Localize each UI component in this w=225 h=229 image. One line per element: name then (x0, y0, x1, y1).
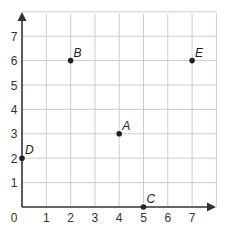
x-tick-labels: 01234567 (11, 211, 196, 225)
point-marker-icon (141, 204, 147, 210)
y-tick-label: 4 (11, 103, 18, 117)
y-tick-label: 1 (11, 176, 18, 190)
y-tick-label: 3 (11, 127, 18, 141)
x-axis-arrow-icon (207, 203, 216, 212)
y-tick-label: 2 (11, 152, 18, 166)
coordinate-plane: 01234567 1234567 ABCDE (0, 0, 225, 229)
y-tick-label: 7 (11, 30, 18, 44)
x-tick-label: 0 (11, 211, 18, 225)
point-marker-icon (68, 58, 74, 64)
x-tick-label: 4 (116, 211, 123, 225)
x-tick-label: 5 (140, 211, 147, 225)
x-tick-label: 1 (43, 211, 50, 225)
point-label: A (121, 119, 130, 133)
x-tick-label: 2 (67, 211, 74, 225)
point-label: B (74, 46, 82, 60)
y-tick-label: 6 (11, 54, 18, 68)
point-marker-icon (189, 58, 195, 64)
point-label: E (195, 46, 204, 60)
x-tick-label: 3 (92, 211, 99, 225)
y-axis-arrow-icon (18, 12, 27, 21)
point-marker-icon (19, 155, 25, 161)
point-marker-icon (116, 131, 122, 137)
grid-lines (22, 12, 216, 207)
point-label: D (25, 143, 34, 157)
axes (18, 12, 217, 212)
y-tick-label: 5 (11, 79, 18, 93)
data-points: ABCDE (19, 46, 204, 210)
y-tick-labels: 1234567 (11, 30, 18, 190)
x-tick-label: 6 (164, 211, 171, 225)
x-tick-label: 7 (189, 211, 196, 225)
point-label: C (147, 192, 156, 206)
